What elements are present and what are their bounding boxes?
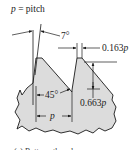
forty-five-degree-label: 45° [45,90,59,100]
depth-label: 0.663p [80,98,106,108]
thread-diagram: p = pitch 7° 0.163p 45° 0.663p p (a) But… [0,0,135,150]
angle-arrow-right [41,31,60,36]
pitch-dim-label: p [49,111,55,121]
seven-degree-label: 7° [61,31,70,41]
angle-arrow-left [12,31,32,35]
thread-profile [15,58,116,134]
pitch-label: p = pitch [10,4,45,14]
crest-width-label: 0.163p [102,43,128,53]
figure-caption: (a) Buttress thread [14,147,73,150]
